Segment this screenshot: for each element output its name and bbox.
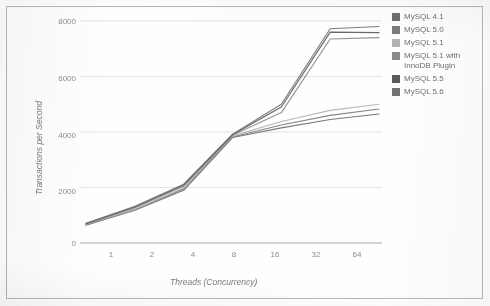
legend-item-label: MySQL 5.1 (404, 38, 444, 48)
y-tick-label-8000: 8000 (42, 17, 76, 26)
legend-item-label: MySQL 4.1 (404, 12, 444, 22)
chart-legend: MySQL 4.1MySQL 5.0MySQL 5.1MySQL 5.1 wit… (392, 12, 484, 100)
legend-color-swatch (392, 13, 400, 21)
legend-color-swatch (392, 75, 400, 83)
y-tick-label-4000: 4000 (42, 131, 76, 140)
legend-item: MySQL 5.1 with InnoDB Plugin (392, 51, 484, 71)
x-tick-label-2: 2 (139, 250, 165, 259)
series-line (86, 27, 379, 224)
legend-item: MySQL 5.6 (392, 87, 484, 97)
legend-item: MySQL 5.0 (392, 25, 484, 35)
legend-item-label: MySQL 5.1 with InnoDB Plugin (404, 51, 480, 71)
legend-item-label: MySQL 5.5 (404, 74, 444, 84)
legend-color-swatch (392, 39, 400, 47)
series-line (86, 38, 379, 224)
x-tick-label-4: 4 (180, 250, 206, 259)
y-tick-label-2000: 2000 (42, 187, 76, 196)
legend-color-swatch (392, 88, 400, 96)
y-tick-label-0: 0 (42, 239, 76, 248)
series-line (86, 32, 379, 223)
series-line (86, 104, 379, 224)
x-tick-label-8: 8 (221, 250, 247, 259)
legend-color-swatch (392, 26, 400, 34)
y-tick-label-6000: 6000 (42, 74, 76, 83)
series-line (86, 109, 379, 225)
legend-item: MySQL 5.1 (392, 38, 484, 48)
legend-item-label: MySQL 5.0 (404, 25, 444, 35)
x-axis-title: Threads (Concurrency) (170, 277, 257, 287)
legend-item-label: MySQL 5.6 (404, 87, 444, 97)
legend-item: MySQL 4.1 (392, 12, 484, 22)
x-tick-label-32: 32 (303, 250, 329, 259)
x-tick-label-16: 16 (262, 250, 288, 259)
chart-figure: 8000 6000 4000 2000 0 1 2 4 8 16 32 64 T… (0, 0, 490, 306)
x-tick-label-1: 1 (98, 250, 124, 259)
legend-color-swatch (392, 52, 400, 60)
x-tick-label-64: 64 (344, 250, 370, 259)
legend-item: MySQL 5.5 (392, 74, 484, 84)
y-axis-title: Transactions per Second (34, 101, 44, 195)
